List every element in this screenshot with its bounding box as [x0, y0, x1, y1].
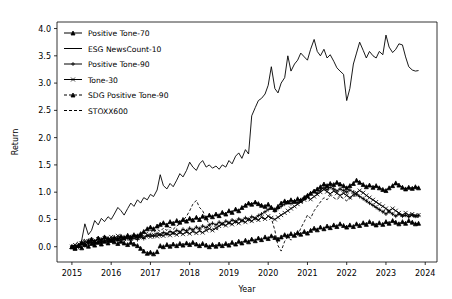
y-tick-label: 4.0: [38, 25, 51, 34]
legend-label: Tone-30: [87, 76, 118, 85]
line-chart-canvas: 0.00.51.01.52.02.53.03.54.02015201620172…: [0, 0, 452, 299]
legend-label: Positive Tone-70: [88, 29, 150, 38]
x-tick-label: 2016: [101, 269, 121, 278]
legend-label: Positive Tone-90: [88, 60, 150, 69]
x-tick-label: 2019: [219, 269, 239, 278]
chart-figure: 0.00.51.01.52.02.53.03.54.02015201620172…: [0, 0, 452, 299]
x-tick-label: 2015: [62, 269, 82, 278]
x-axis-title: Year: [238, 285, 257, 294]
legend-label: ESG NewsCount-10: [88, 45, 162, 54]
x-tick-label: 2017: [140, 269, 160, 278]
x-tick-label: 2021: [297, 269, 317, 278]
x-tick-label: 2018: [180, 269, 200, 278]
y-tick-label: 3.5: [38, 52, 51, 61]
x-tick-label: 2024: [415, 269, 435, 278]
y-tick-label: 1.0: [38, 188, 51, 197]
y-tick-label: 0.5: [38, 215, 51, 224]
x-tick-label: 2022: [337, 269, 357, 278]
y-tick-label: 2.5: [38, 106, 51, 115]
legend-label: STOXX600: [88, 107, 128, 116]
y-tick-label: 0.0: [38, 243, 51, 252]
y-axis-title: Return: [11, 129, 20, 156]
y-tick-label: 3.0: [38, 79, 51, 88]
y-tick-label: 2.0: [38, 134, 51, 143]
legend-label: SDG Positive Tone-90: [88, 91, 169, 100]
x-tick-label: 2023: [376, 269, 396, 278]
x-tick-label: 2020: [258, 269, 278, 278]
y-tick-label: 1.5: [38, 161, 51, 170]
